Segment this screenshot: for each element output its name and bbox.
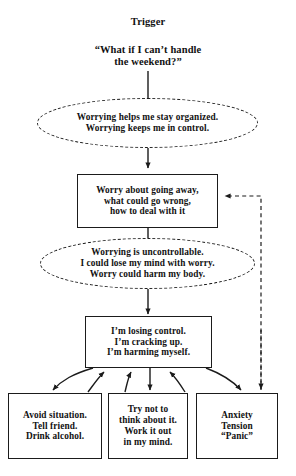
appraisal-lines: I’m losing control. I’m cracking up. I’m…: [86, 326, 211, 359]
appraisal-line-2: I’m cracking up.: [86, 337, 211, 348]
emotion-line-2: Tension: [197, 421, 277, 432]
trigger-thought-line-1: “What if I can’t handle: [68, 44, 228, 56]
trigger-thought-lines: “What if I can’t handle the weekend?”: [68, 44, 228, 69]
edge-emotion-to-appraisal: [170, 372, 185, 392]
negative-beliefs-line-2: I could lose my mind with worry.: [41, 258, 254, 269]
worry-process-node: Worry about going away, what could go wr…: [77, 174, 218, 228]
positive-beliefs-lines: Worrying helps me stay organized. Worryi…: [38, 112, 257, 134]
worry-process-lines: Worry about going away, what could go wr…: [78, 185, 217, 218]
behaviour-lines: Avoid situation. Tell friend. Drink alco…: [9, 410, 101, 443]
thought-control-line-2: think about it.: [109, 415, 187, 426]
positive-beliefs-node: Worrying helps me stay organized. Worryi…: [37, 98, 258, 148]
behaviour-line-1: Avoid situation.: [9, 410, 101, 421]
edge-appraisal-to-emotion: [206, 368, 241, 390]
emotion-line-1: Anxiety: [197, 410, 277, 421]
emotion-lines: Anxiety Tension “Panic”: [197, 410, 277, 443]
thought-control-line-3: Work it out: [109, 426, 187, 437]
trigger-title: Trigger: [108, 14, 188, 30]
trigger-title-line-1: Trigger: [108, 16, 188, 28]
positive-beliefs-line-1: Worrying helps me stay organized.: [38, 112, 257, 123]
thought-control-line-1: Try not to: [109, 404, 187, 415]
negative-beliefs-line-3: Worry could harm my body.: [41, 269, 254, 280]
appraisal-line-1: I’m losing control.: [86, 326, 211, 337]
behaviour-line-3: Drink alcohol.: [9, 431, 101, 442]
thought-control-lines: Try not to think about it. Work it out i…: [109, 404, 187, 448]
appraisal-node: I’m losing control. I’m cracking up. I’m…: [85, 316, 212, 368]
negative-beliefs-lines: Worrying is uncontrollable. I could lose…: [41, 247, 254, 280]
thought-control-line-4: in my mind.: [109, 437, 187, 448]
edge-thought-control-to-appraisal: [125, 372, 131, 392]
trigger-thought-line-2: the weekend?”: [68, 56, 228, 68]
trigger-title-lines: Trigger: [108, 16, 188, 28]
behaviour-node: Avoid situation. Tell friend. Drink alco…: [8, 393, 102, 459]
edge-emotion-feedback-to-worry: [225, 196, 261, 390]
appraisal-line-3: I’m harming myself.: [86, 347, 211, 358]
edge-behaviour-to-appraisal: [88, 372, 104, 392]
positive-beliefs-line-2: Worrying keeps me in control.: [38, 123, 257, 134]
worry-process-line-3: how to deal with it: [78, 206, 217, 217]
emotion-node: Anxiety Tension “Panic”: [196, 393, 278, 459]
behaviour-line-2: Tell friend.: [9, 421, 101, 432]
trigger-thought: “What if I can’t handle the weekend?”: [68, 40, 228, 72]
worry-process-line-2: what could go wrong,: [78, 196, 217, 207]
diagram-canvas: Trigger “What if I can’t handle the week…: [0, 0, 296, 476]
negative-beliefs-node: Worrying is uncontrollable. I could lose…: [40, 238, 255, 289]
edge-appraisal-to-behaviour: [53, 368, 93, 390]
negative-beliefs-line-1: Worrying is uncontrollable.: [41, 247, 254, 258]
worry-process-line-1: Worry about going away,: [78, 185, 217, 196]
emotion-line-3: “Panic”: [197, 431, 277, 442]
thought-control-node: Try not to think about it. Work it out i…: [108, 393, 188, 459]
